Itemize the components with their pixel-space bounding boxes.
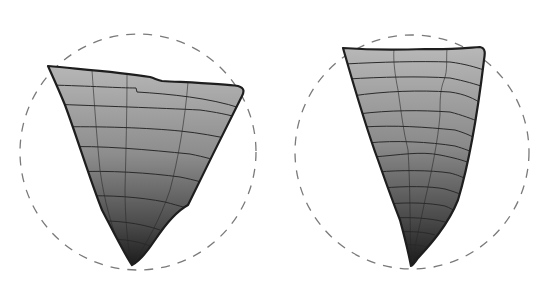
right-wedge-fill <box>343 47 485 266</box>
left-figure <box>20 34 256 270</box>
right-figure <box>295 35 529 269</box>
diagram-canvas <box>0 0 541 291</box>
diagram-svg <box>0 0 541 291</box>
left-wedge-fill <box>48 66 243 265</box>
